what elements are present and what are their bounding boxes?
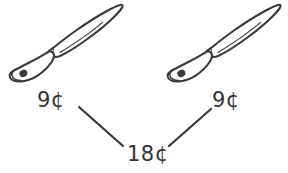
price-label-left: 9¢ — [37, 90, 65, 111]
price-label-right: 9¢ — [212, 90, 240, 111]
connector-right — [169, 109, 211, 146]
knife-icon-left — [10, 5, 123, 82]
connector-left — [79, 107, 123, 146]
total-label: 18¢ — [127, 144, 169, 165]
knife-icon-right — [168, 5, 281, 82]
illustration-canvas: 9¢ 9¢ 18¢ — [0, 0, 288, 173]
